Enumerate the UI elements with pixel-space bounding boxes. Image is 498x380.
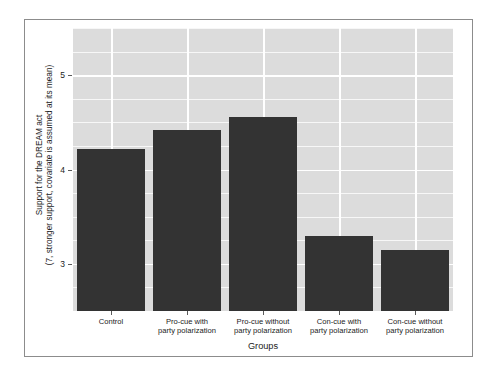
bar [305, 236, 373, 311]
figure-root: Support for the DREAM act (7, stronger s… [0, 0, 498, 380]
x-tick-label: Pro-cue withoutparty polarization [225, 317, 301, 336]
y-tick-mark [68, 75, 72, 76]
x-tick-label-line: party polarization [377, 326, 453, 335]
x-tick-label-line: Control [73, 317, 149, 326]
bar [229, 117, 297, 311]
bar [153, 130, 221, 311]
x-tick-label: Pro-cue withparty polarization [149, 317, 225, 336]
y-tick-label: 4 [45, 165, 65, 175]
bar [77, 149, 145, 311]
y-tick-mark [68, 264, 72, 265]
bar [381, 250, 449, 311]
x-tick-mark [263, 311, 264, 315]
x-tick-label: Con-cue withoutparty polarization [377, 317, 453, 336]
x-tick-label-line: party polarization [225, 326, 301, 335]
plot-area [73, 28, 453, 311]
x-axis-title: Groups [73, 341, 453, 351]
x-tick-label: Con-cue withparty polarization [301, 317, 377, 336]
x-tick-mark [339, 311, 340, 315]
x-tick-label: Control [73, 317, 149, 326]
x-tick-label-line: Con-cue without [377, 317, 453, 326]
x-tick-label-line: Pro-cue with [149, 317, 225, 326]
x-tick-label-line: party polarization [149, 326, 225, 335]
x-tick-label-line: Con-cue with [301, 317, 377, 326]
x-tick-mark [187, 311, 188, 315]
x-tick-label-line: Pro-cue without [225, 317, 301, 326]
y-tick-label: 5 [45, 70, 65, 80]
x-tick-label-line: party polarization [301, 326, 377, 335]
y-tick-label: 3 [45, 259, 65, 269]
y-tick-mark [68, 170, 72, 171]
x-tick-mark [111, 311, 112, 315]
x-tick-mark [415, 311, 416, 315]
